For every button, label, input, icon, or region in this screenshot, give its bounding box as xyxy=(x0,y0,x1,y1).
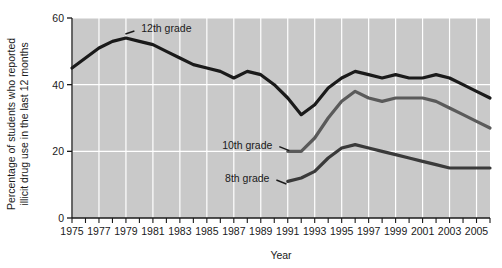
x-tick-label: 2001 xyxy=(411,225,435,237)
series-label-10th-grade: 10th grade xyxy=(222,139,272,151)
x-tick-label: 1981 xyxy=(141,225,165,237)
y-tick-label: 0 xyxy=(58,212,64,224)
x-axis-label: Year xyxy=(270,249,292,261)
x-tick-label: 1985 xyxy=(195,225,219,237)
chart-figure: 0204060 19751977197919811983198519871989… xyxy=(0,0,502,268)
line-chart: 0204060 19751977197919811983198519871989… xyxy=(0,0,502,268)
x-tick-label: 1999 xyxy=(384,225,408,237)
x-tick-label: 1989 xyxy=(249,225,273,237)
x-tick-label: 1997 xyxy=(357,225,381,237)
x-tick-label: 2005 xyxy=(465,225,489,237)
x-tick-label: 1991 xyxy=(276,225,300,237)
y-axis-label-line-1: Percentage of students who reported xyxy=(5,38,17,210)
plot-area-background xyxy=(72,18,490,218)
x-tick-label: 1975 xyxy=(60,225,84,237)
series-label-12th-grade: 12th grade xyxy=(141,22,191,34)
x-tick-label: 1977 xyxy=(87,225,111,237)
y-tick-label: 40 xyxy=(52,79,64,91)
y-tick-label: 20 xyxy=(52,145,64,157)
y-tick-label: 60 xyxy=(52,12,64,24)
x-tick-label: 1983 xyxy=(168,225,192,237)
x-tick-label: 1979 xyxy=(114,225,138,237)
series-label-8th-grade: 8th grade xyxy=(225,172,270,184)
x-tick-label: 2003 xyxy=(438,225,462,237)
x-tick-label: 1995 xyxy=(330,225,354,237)
x-tick-label: 1987 xyxy=(222,225,246,237)
x-tick-label: 1993 xyxy=(303,225,327,237)
y-axis-label-line-2: illicit drug use in the last 12 months xyxy=(18,42,30,205)
